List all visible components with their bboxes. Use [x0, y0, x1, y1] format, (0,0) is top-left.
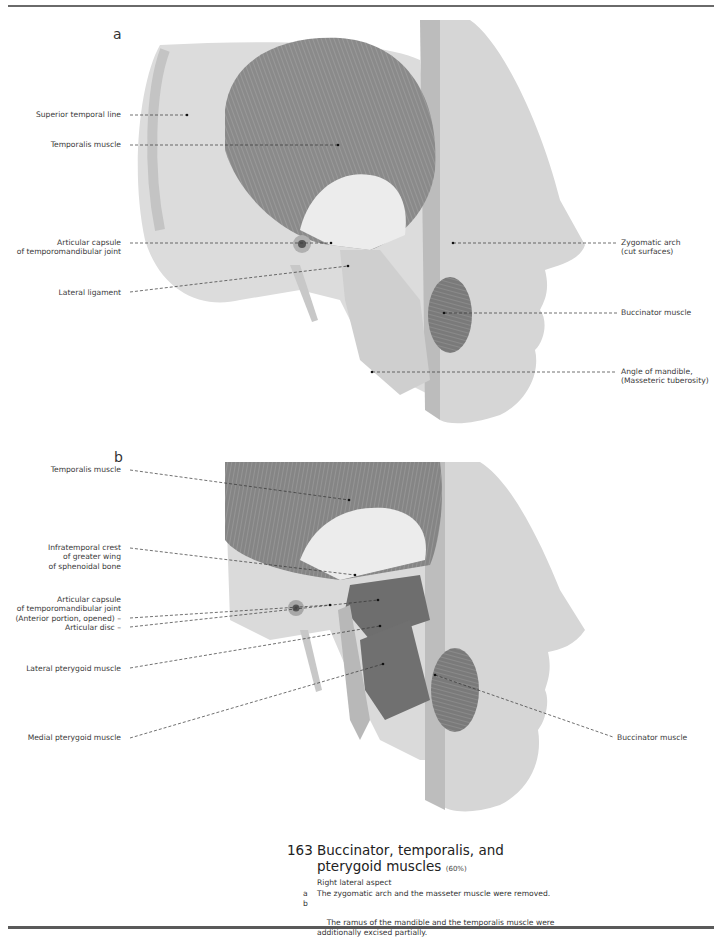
- caption-item-key: a: [303, 889, 308, 899]
- caption-item-key: b: [303, 899, 308, 909]
- label-temporalis-muscle-a: Temporalis muscle: [51, 140, 121, 149]
- caption-item-text: The zygomatic arch and the masseter musc…: [317, 889, 550, 898]
- figure-number: 163: [287, 842, 313, 858]
- caption-item-a: a The zygomatic arch and the masseter mu…: [317, 889, 550, 899]
- figure-subtitle: Right lateral aspect: [317, 878, 391, 887]
- label-angle-of-mandible: Angle of mandible, (Masseteric tuberosit…: [621, 367, 709, 386]
- panel-b-drawing: [225, 462, 585, 811]
- figure-scale: (60%): [446, 865, 467, 873]
- label-temporalis-muscle-b: Temporalis muscle: [51, 465, 121, 474]
- label-articular-capsule-disc-b: Articular capsule of temporomandibular j…: [15, 595, 121, 633]
- label-superior-temporal-line: Superior temporal line: [36, 110, 121, 119]
- label-buccinator-muscle-b: Buccinator muscle: [617, 733, 687, 742]
- caption-item-b: b The ramus of the mandible and the temp…: [317, 899, 554, 941]
- label-buccinator-muscle-a: Buccinator muscle: [621, 308, 691, 317]
- label-articular-capsule-a: Articular capsule of temporomandibular j…: [17, 238, 121, 257]
- label-lateral-pterygoid: Lateral pterygoid muscle: [26, 664, 121, 673]
- figure-title: Buccinator, temporalis, and pterygoid mu…: [317, 842, 504, 877]
- panel-a-drawing: [138, 20, 585, 423]
- label-medial-pterygoid: Medial pterygoid muscle: [28, 733, 121, 742]
- label-zygomatic-arch: Zygomatic arch (cut surfaces): [621, 238, 681, 257]
- label-infratemporal-crest: Infratemporal crest of greater wing of s…: [48, 543, 121, 571]
- panel-letter-a: a: [113, 26, 122, 42]
- panel-letter-b: b: [114, 449, 123, 465]
- label-lateral-ligament: Lateral ligament: [59, 288, 121, 297]
- bottom-rule: [8, 926, 714, 929]
- figure-title-line2: pterygoid muscles: [317, 858, 441, 874]
- figure-title-line1: Buccinator, temporalis, and: [317, 842, 504, 858]
